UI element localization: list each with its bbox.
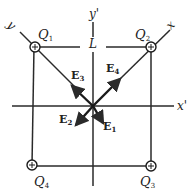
- vector-e1: [93, 106, 103, 123]
- vector-e2-label: E2: [59, 114, 72, 126]
- field-diagram: y' x' y x L Q1 Q2 Q3 Q4 E3 E4 E2 E1: [0, 0, 196, 192]
- vector-e4-label: E4: [106, 63, 119, 75]
- charge-q1-label: Q1: [38, 28, 53, 43]
- charge-q4-label: Q4: [34, 175, 49, 190]
- vector-e2: [76, 106, 93, 125]
- y-prime-axis-label: y': [89, 8, 99, 20]
- vector-e3: [72, 86, 93, 106]
- vector-e4: [93, 79, 120, 106]
- x-prime-axis-label: x': [177, 100, 187, 112]
- side-length-label: L: [89, 38, 97, 50]
- charge-q3-label: Q3: [140, 175, 155, 190]
- vector-e1-label: E1: [103, 121, 116, 133]
- charge-q2-label: Q2: [135, 28, 150, 43]
- vector-e3-label: E3: [71, 70, 84, 82]
- diagram-canvas: [0, 0, 196, 192]
